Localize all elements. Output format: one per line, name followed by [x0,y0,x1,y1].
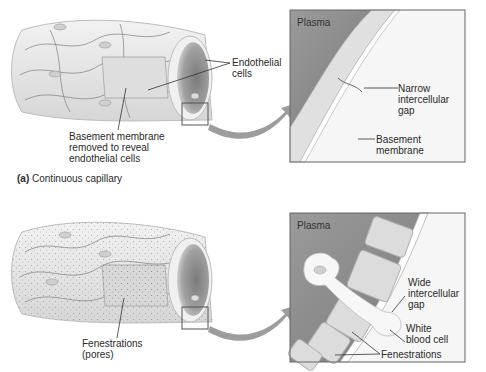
label-line: White [406,323,448,334]
label-line: gap [408,299,459,310]
label-line: Narrow [398,83,449,94]
diagram-artwork [0,0,486,372]
label-narrow-intercellular-gap: Narrow intercellular gap [398,83,449,116]
zoom-arrow-b [208,306,294,341]
zoom-arrow-a [208,104,294,139]
caption-continuous-capillary: (a) Continuous capillary [17,173,122,184]
caption-letter: (a) [17,173,29,184]
label-line: Fenestrations [82,338,143,349]
label-line: removed to reveal [69,142,165,153]
label-line: cells [232,68,281,79]
label-line: intercellular [408,288,459,299]
label-basement-membrane-removed: Basement membrane removed to reveal endo… [69,131,165,164]
label-line: endothelial cells [69,153,165,164]
caption-text: Continuous capillary [32,173,122,184]
label-line: blood cell [406,334,448,345]
label-line: Basement [376,134,424,145]
continuous-capillary-tube [12,20,231,130]
label-line: membrane [376,145,424,156]
label-line: Endothelial [232,57,281,68]
label-basement-membrane: Basement membrane [376,134,424,156]
label-line: intercellular [398,94,449,105]
label-line: Wide [408,277,459,288]
label-wide-intercellular-gap: Wide intercellular gap [408,277,459,310]
label-white-blood-cell: White blood cell [406,323,448,345]
label-fenestrations-pores: Fenestrations (pores) [82,338,143,360]
label-line: Basement membrane [69,131,165,142]
plasma-label-a: Plasma [297,17,330,28]
label-line: gap [398,105,449,116]
label-line: (pores) [82,349,143,360]
label-fenestrations: Fenestrations [381,349,442,360]
fenestrated-capillary-tube [12,222,213,338]
plasma-label-b: Plasma [297,220,330,231]
label-endothelial-cells: Endothelial cells [232,57,281,79]
